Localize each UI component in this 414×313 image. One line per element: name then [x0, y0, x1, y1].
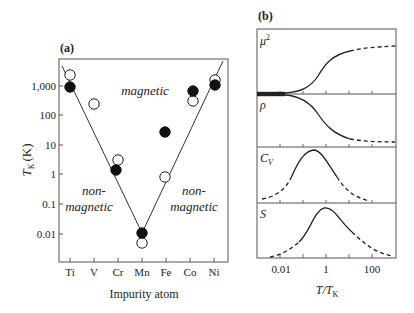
data-point-filled-ni — [210, 80, 220, 90]
panel-b: (b) μ2 ρ CV S — [257, 9, 396, 299]
svg-text:non-: non- — [82, 183, 106, 198]
data-point-open-fe — [160, 172, 170, 182]
panel-a: (a) 1,000 100 10 1 0.1 0.01 TK(K) — [19, 41, 228, 301]
panel-a-x-axis-label: Impurity atom — [110, 287, 180, 301]
data-point-open-cr — [113, 155, 123, 165]
data-point-filled-ti — [65, 82, 75, 92]
x-tick-label: Fe — [161, 266, 172, 278]
x-tick-label: Cr — [113, 266, 124, 278]
panel-a-y-axis-label: TK(K) — [19, 143, 36, 176]
data-point-open-ti — [65, 70, 75, 80]
mu-squared-label: μ2 — [259, 33, 270, 48]
data-point-filled-co — [188, 86, 198, 96]
x-tick-label: Co — [184, 266, 197, 278]
panel-a-x-ticks — [70, 258, 214, 262]
x-tick-label: V — [90, 266, 98, 278]
cv-curve — [262, 150, 370, 201]
y-tick-label: 0.1 — [42, 198, 56, 210]
panel-a-label: (a) — [60, 41, 74, 55]
data-point-open-co — [188, 96, 198, 106]
y-tick-label: 1 — [51, 168, 57, 180]
svg-text:non-: non- — [182, 183, 206, 198]
panel-b-x-ticks — [280, 91, 372, 258]
mu-squared-curve — [257, 46, 395, 93]
panel-a-x-tick-labels: Ti V Cr Mn Fe Co Ni — [65, 266, 219, 278]
panel-b-x-tick-labels: 0.01 1 100 — [271, 263, 380, 275]
rho-curve — [257, 95, 395, 142]
panel-a-y-tick-labels: 1,000 100 10 1 0.1 0.01 — [31, 80, 56, 240]
annotation-non-magnetic-left: non- magnetic — [65, 183, 113, 214]
x-tick-label: Ti — [65, 266, 74, 278]
svg-text:magnetic: magnetic — [170, 199, 218, 214]
y-tick-label: 0.01 — [37, 228, 56, 240]
cv-label: CV — [260, 151, 274, 167]
entropy-curve — [270, 208, 392, 257]
entropy-label: S — [260, 207, 266, 221]
svg-text:TK(K): TK(K) — [19, 143, 36, 176]
x-tick-label: 1 — [323, 263, 329, 275]
data-point-filled-fe — [160, 127, 170, 137]
y-tick-label: 1,000 — [31, 80, 56, 92]
x-tick-label: 100 — [364, 263, 381, 275]
x-tick-label: 0.01 — [271, 263, 290, 275]
svg-text:magnetic: magnetic — [65, 199, 113, 214]
x-tick-label: Ni — [209, 266, 220, 278]
panel-b-label: (b) — [258, 9, 273, 23]
x-tick-label: Mn — [134, 266, 150, 278]
rho-label: ρ — [259, 98, 266, 112]
y-tick-label: 100 — [40, 109, 57, 121]
panel-b-x-axis-label: T/TK — [316, 283, 339, 299]
annotation-non-magnetic-right: non- magnetic — [170, 183, 218, 214]
data-point-filled-cr — [111, 165, 121, 175]
panel-a-y-ticks — [59, 86, 63, 234]
y-tick-label: 10 — [45, 139, 57, 151]
annotation-magnetic: magnetic — [121, 83, 169, 98]
data-point-filled-mn — [137, 228, 147, 238]
data-point-open-v — [89, 99, 99, 109]
figure: (a) 1,000 100 10 1 0.1 0.01 TK(K) — [0, 0, 414, 313]
data-point-open-mn — [137, 238, 147, 248]
